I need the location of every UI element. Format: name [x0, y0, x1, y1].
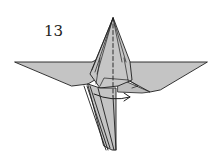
origami-model [15, 18, 207, 150]
origami-diagram [0, 0, 220, 164]
left-wing [15, 58, 100, 86]
top-spike [90, 18, 132, 88]
